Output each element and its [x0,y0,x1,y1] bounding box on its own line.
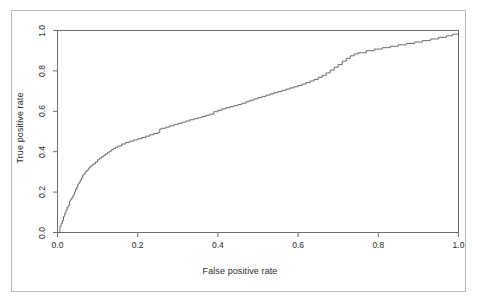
y-tick-label: 0.4 [37,142,49,162]
x-tick-label: 1.0 [444,240,474,250]
x-axis-title: False positive rate [0,266,480,276]
roc-curve-path [58,33,459,233]
y-tick-label: 0.2 [37,182,49,202]
roc-chart-figure: False positive rate True positive rate 0… [0,0,480,304]
x-tick-label: 0.8 [363,240,393,250]
plot-box [58,31,459,233]
x-tick-label: 0.2 [123,240,153,250]
x-tick-label: 0.6 [283,240,313,250]
y-tick-label: 0.6 [37,101,49,121]
y-tick-label: 0.0 [37,223,49,243]
y-tick-label: 0.8 [37,61,49,81]
y-tick-label: 1.0 [37,21,49,41]
axes-group [53,31,459,238]
y-axis-title: True positive rate [15,68,25,188]
x-tick-label: 0.4 [203,240,233,250]
roc-curve-group [58,33,459,233]
plot-canvas [0,0,480,304]
